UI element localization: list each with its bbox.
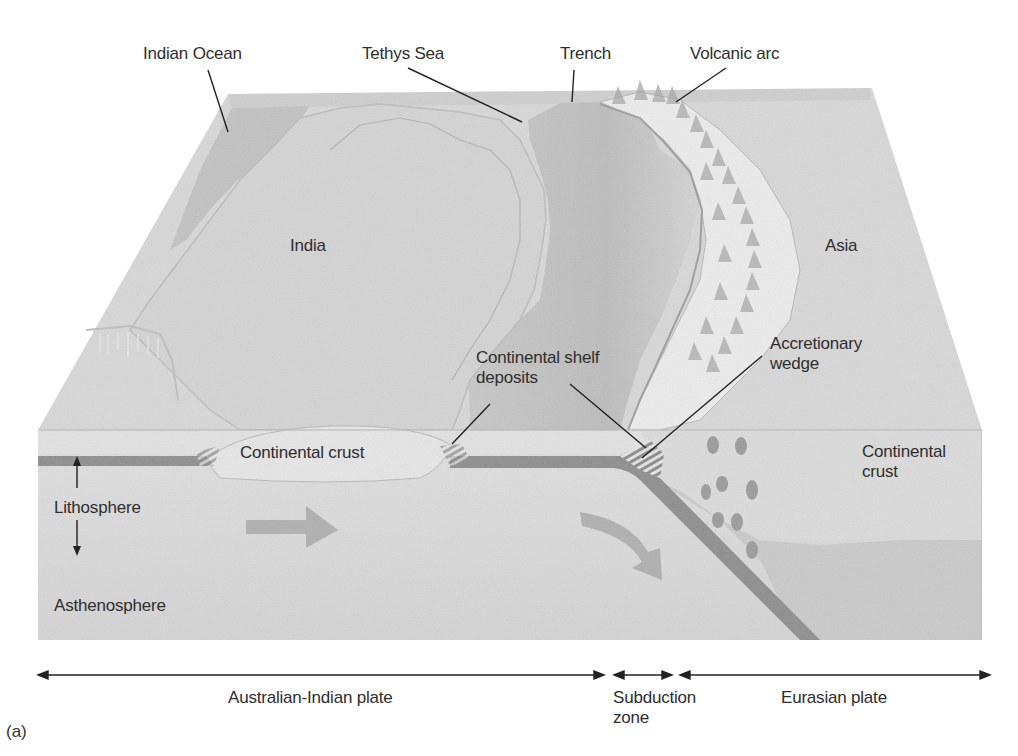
cross-section — [38, 426, 982, 640]
label-continental-shelf-deposits: Continental shelf deposits — [476, 348, 599, 388]
label-trench: Trench — [560, 44, 611, 64]
label-volcanic-arc: Volcanic arc — [690, 44, 779, 64]
label-lithosphere: Lithosphere — [54, 498, 141, 518]
label-accretionary-wedge: Accretionary wedge — [770, 334, 862, 374]
label-subduction-zone: Subduction zone — [613, 688, 696, 728]
label-asia: Asia — [825, 236, 857, 256]
label-continental-crust-asia: Continental crust — [862, 442, 946, 482]
plate-extent-arrows — [38, 671, 990, 679]
label-continental-crust-india: Continental crust — [240, 443, 364, 463]
label-tethys-sea: Tethys Sea — [362, 44, 444, 64]
label-india: India — [290, 236, 326, 256]
panel-label: (a) — [6, 722, 27, 742]
label-indian-ocean: Indian Ocean — [143, 44, 242, 64]
label-eurasian-plate: Eurasian plate — [781, 688, 887, 708]
label-australian-indian-plate: Australian-Indian plate — [228, 688, 393, 708]
label-asthenosphere: Asthenosphere — [54, 596, 166, 616]
